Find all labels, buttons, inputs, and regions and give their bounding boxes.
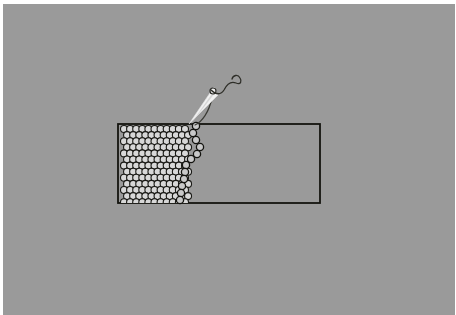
chain-particle — [193, 150, 200, 157]
chain-particle — [187, 155, 194, 162]
chain-particle — [180, 175, 187, 182]
chain-particle — [189, 129, 196, 136]
chain-particle — [177, 189, 184, 196]
chain-particle — [196, 143, 203, 150]
chain-particle — [182, 161, 189, 168]
chain-particle — [192, 136, 199, 143]
screenshot-root — [0, 0, 456, 315]
chain-particle — [181, 168, 188, 175]
chain-particle — [178, 182, 185, 189]
figure-svg — [0, 0, 456, 315]
chain-particle — [176, 196, 183, 203]
